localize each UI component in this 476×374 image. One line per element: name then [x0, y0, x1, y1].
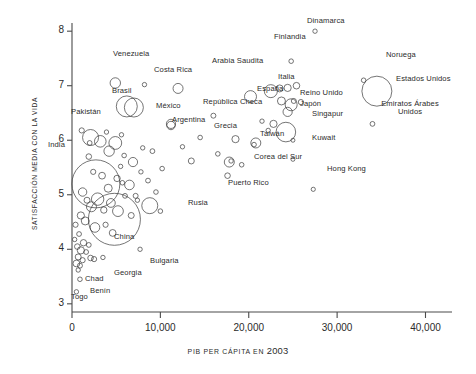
data-bubble — [80, 258, 85, 263]
x-axis-title: PIB PER CÁPITA EN 2003 — [0, 345, 476, 356]
x-axis-title-text: PIB PER CÁPITA EN — [188, 348, 265, 355]
point-label: México — [156, 102, 181, 110]
data-bubble — [104, 130, 108, 134]
data-bubble — [113, 206, 124, 217]
data-bubble — [101, 207, 107, 213]
y-axis-title: SATISFACCIÓN MEDIA CON LA VIDA — [31, 44, 38, 284]
point-label: Estados Unidos — [396, 75, 451, 83]
data-bubble — [104, 146, 114, 156]
data-bubble-labeled — [211, 113, 216, 118]
point-label: Reino Unido — [300, 89, 343, 97]
data-bubble — [86, 243, 91, 248]
data-bubble — [141, 146, 145, 150]
x-tick-marks — [72, 312, 425, 318]
data-bubble — [119, 133, 123, 137]
data-bubble — [81, 217, 89, 225]
point-label: Taiwán — [260, 130, 284, 138]
scatter-chart: 345678 010,00020,00030,00040,000 Venezue… — [0, 0, 476, 374]
x-tick-label: 10,000 — [130, 322, 190, 333]
point-label: República Checa — [203, 98, 262, 106]
data-bubble — [80, 240, 86, 246]
data-bubble-labeled — [76, 268, 80, 272]
data-bubble — [198, 135, 203, 140]
data-bubble-labeled — [313, 29, 317, 33]
point-label: Pakistán — [71, 108, 101, 116]
data-bubble — [73, 222, 78, 227]
point-label: Grecia — [214, 122, 237, 130]
data-bubble — [160, 166, 165, 171]
point-label: Hong Kong — [327, 165, 366, 173]
data-bubble-labeled — [142, 82, 146, 86]
data-bubble — [77, 247, 84, 254]
point-label: Dinamarca — [307, 17, 345, 25]
data-bubble — [139, 170, 143, 174]
data-bubble — [79, 128, 84, 133]
point-label: Corea del Sur — [254, 153, 302, 161]
data-bubble — [78, 188, 86, 196]
point-label: Noruega — [386, 51, 416, 59]
point-label: Emiratos ÁrabesUnidos — [380, 100, 440, 116]
data-bubble — [284, 84, 291, 91]
y-tick-label: 4 — [50, 242, 64, 253]
data-bubble — [103, 222, 108, 227]
data-bubble — [120, 180, 125, 185]
data-bubble — [239, 162, 244, 167]
data-bubble — [158, 209, 163, 214]
point-label: Arabia Saudita — [212, 57, 263, 65]
data-bubble — [180, 145, 184, 149]
data-bubble — [91, 169, 96, 174]
data-bubble-labeled — [142, 198, 158, 214]
data-bubble — [135, 198, 139, 202]
data-bubble — [216, 152, 221, 157]
data-bubble — [88, 255, 94, 261]
point-label: Puerto Rico — [228, 179, 269, 187]
data-bubble-labeled — [78, 277, 83, 282]
point-label: Georgia — [114, 269, 142, 277]
point-label: Kuwait — [312, 134, 335, 142]
data-bubble-labeled — [370, 121, 375, 126]
data-bubble-labeled — [232, 136, 239, 143]
point-label: India — [48, 141, 65, 149]
point-label: España — [257, 85, 283, 93]
data-bubble — [188, 158, 194, 164]
data-bubble — [72, 237, 76, 241]
data-bubble — [270, 120, 277, 127]
point-label: Venezuela — [113, 50, 149, 58]
data-bubble — [283, 107, 292, 116]
x-tick-label: 40,000 — [395, 322, 455, 333]
data-bubble — [128, 212, 134, 218]
data-bubble — [90, 223, 100, 233]
data-bubble-labeled — [138, 247, 142, 251]
point-label: Argentina — [172, 116, 205, 124]
x-tick-label: 30,000 — [307, 322, 367, 333]
x-tick-label: 20,000 — [219, 322, 279, 333]
data-bubble — [109, 137, 122, 150]
point-label: Chad — [85, 275, 104, 283]
data-bubble — [104, 184, 112, 192]
x-tick-label: 0 — [42, 322, 102, 333]
data-bubble-labeled — [101, 255, 105, 259]
y-tick-label: 5 — [50, 188, 64, 199]
data-bubble — [154, 190, 159, 195]
point-label: Singapur — [312, 110, 343, 118]
data-bubble — [99, 172, 106, 179]
data-bubble — [77, 212, 84, 219]
data-bubble — [86, 154, 92, 160]
data-bubble — [277, 97, 285, 105]
data-bubble — [125, 180, 135, 190]
point-label: Finlandia — [274, 33, 306, 41]
data-bubble — [229, 159, 233, 163]
point-label: Rusia — [188, 199, 208, 207]
point-label: Costa Rica — [154, 66, 192, 74]
y-tick-label: 3 — [50, 297, 64, 308]
data-bubble — [75, 244, 81, 250]
data-bubble — [128, 157, 137, 166]
point-label: Brasil — [112, 87, 132, 95]
x-axis-title-year: 2003 — [267, 345, 289, 356]
data-bubble — [87, 141, 92, 146]
point-label: Togo — [71, 293, 88, 301]
point-label: China — [114, 233, 134, 241]
data-bubble-labeled — [173, 83, 183, 93]
data-bubble — [91, 257, 96, 262]
y-tick-marks — [67, 31, 72, 304]
